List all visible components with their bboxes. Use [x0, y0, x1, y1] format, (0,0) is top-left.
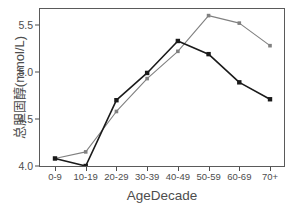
x-tick-mark: [209, 167, 210, 171]
y-tick-label: 5.0: [0, 66, 33, 78]
x-tick-mark: [147, 167, 148, 171]
x-axis-title: AgeDecade: [39, 188, 285, 203]
data-point-marker: [145, 71, 149, 75]
y-tick-mark: [35, 166, 39, 167]
x-tick-label: 10-19: [74, 171, 98, 182]
x-tick-label: 40-49: [166, 171, 190, 182]
plot-panel: [39, 8, 285, 167]
cholesterol-by-age-chart: 总胆固醇(mmol/L) 4.04.55.05.5 0-910-1920-293…: [0, 0, 294, 212]
x-tick-mark: [178, 167, 179, 171]
x-tick-label: 0-9: [48, 171, 62, 182]
series-line-series-gray: [55, 16, 270, 159]
data-point-marker: [115, 110, 119, 114]
data-point-marker: [268, 44, 272, 48]
series-line-series-dark: [55, 41, 270, 166]
data-point-marker: [237, 21, 241, 25]
y-tick-mark: [35, 119, 39, 120]
x-tick-label: 50-59: [196, 171, 220, 182]
x-tick-mark: [86, 167, 87, 171]
y-axis-tick-labels: 4.04.55.05.5: [0, 0, 33, 212]
data-point-marker: [176, 39, 180, 43]
data-point-marker: [207, 14, 211, 18]
x-tick-mark: [239, 167, 240, 171]
x-tick-label: 20-29: [104, 171, 128, 182]
x-tick-mark: [55, 167, 56, 171]
data-point-marker: [53, 156, 57, 160]
data-point-marker: [176, 50, 180, 54]
data-point-marker: [206, 52, 210, 56]
y-tick-mark: [35, 25, 39, 26]
y-tick-label: 4.0: [0, 160, 33, 172]
x-tick-label: 60-69: [227, 171, 251, 182]
plot-lines-layer: [40, 9, 284, 166]
x-tick-mark: [270, 167, 271, 171]
y-tick-mark: [35, 72, 39, 73]
x-tick-label: 70+: [262, 171, 278, 182]
data-point-marker: [268, 97, 272, 101]
y-tick-label: 4.5: [0, 113, 33, 125]
data-point-marker: [84, 150, 88, 154]
y-tick-label: 5.5: [0, 19, 33, 31]
data-point-marker: [84, 164, 88, 166]
x-tick-mark: [116, 167, 117, 171]
data-point-marker: [237, 80, 241, 84]
x-tick-label: 30-39: [135, 171, 159, 182]
data-point-marker: [145, 77, 149, 81]
data-point-marker: [114, 98, 118, 102]
